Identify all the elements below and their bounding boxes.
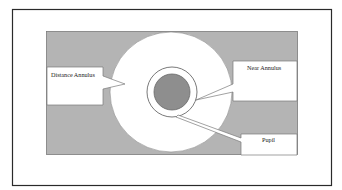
pupil-label: Pupil bbox=[262, 136, 275, 143]
distance-annulus-label: Distance Annulus bbox=[51, 71, 95, 78]
diagram-canvas: Distance Annulus Near Annulus Pupil bbox=[0, 0, 342, 190]
pupil-disc bbox=[154, 74, 190, 110]
near-annulus-label: Near Annulus bbox=[247, 64, 282, 71]
